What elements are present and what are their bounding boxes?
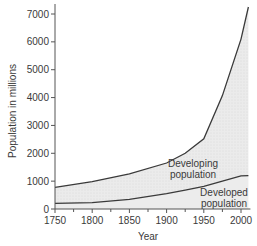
x-tick-label: 1750	[44, 215, 67, 226]
y-axis-label: Population in millions	[7, 64, 18, 158]
developing-population-area	[55, 7, 248, 203]
x-tick-label: 1950	[193, 215, 216, 226]
y-tick-label: 0	[43, 204, 49, 215]
y-axis: 01000200030004000500060007000	[27, 4, 55, 215]
x-tick-label: 2000	[230, 215, 253, 226]
developed-population-label-line2: population	[201, 198, 247, 209]
x-tick-label: 1900	[155, 215, 178, 226]
y-tick-label: 2000	[27, 148, 50, 159]
y-tick-label: 7000	[27, 9, 50, 20]
y-tick-label: 1000	[27, 176, 50, 187]
x-axis-label: Year	[138, 231, 159, 242]
y-tick-label: 6000	[27, 36, 50, 47]
population-chart: 01000200030004000500060007000 1750180018…	[0, 0, 257, 246]
y-tick-label: 5000	[27, 64, 50, 75]
x-tick-label: 1800	[81, 215, 104, 226]
developing-population-label-line2: population	[170, 169, 216, 180]
y-tick-label: 3000	[27, 120, 50, 131]
x-axis: 175018001850190019502000	[44, 209, 253, 226]
developed-population-label: Developed	[200, 187, 248, 198]
y-tick-label: 4000	[27, 92, 50, 103]
x-tick-label: 1850	[118, 215, 141, 226]
developing-population-label: Developing	[168, 158, 218, 169]
